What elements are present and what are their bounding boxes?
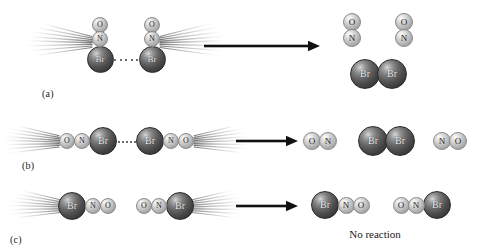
no-reaction-caption: No reaction (349, 228, 401, 240)
reactant-nobr-molecule-right-b-atom-n-1: N (163, 133, 179, 149)
motion-streaks (0, 180, 64, 233)
reactant-nobr-molecule-right-c-atom-br-2: Br (166, 192, 194, 220)
reactant-nobr-molecule-left-b-atom-o-0: O (59, 133, 75, 149)
reaction-arrow-a (204, 39, 320, 53)
reactant-nobr-molecule-left-c-atom-n-1: N (85, 198, 101, 214)
figure-canvas: (a)ONBrONBrONONBrBr(b)ONBrBrNOONBrBrNO(c… (0, 0, 477, 252)
product-nobr-molecule-left-c-atom-o-2: O (353, 197, 370, 214)
row-label-b: (b) (22, 160, 34, 171)
collision-contact-dots (114, 58, 138, 61)
reaction-arrow-c (236, 199, 298, 213)
product-nobr-molecule-right-c-atom-br-2: Br (423, 191, 451, 219)
product-no-molecule-right-b-atom-o-1: O (449, 132, 467, 150)
contact-dot (126, 141, 128, 143)
contact-dot (125, 59, 127, 61)
reactant-nobr-molecule-left-c-atom-o-2: O (100, 198, 116, 214)
contact-dot (130, 141, 132, 143)
product-br2-molecule-a-atom-br-1: Br (377, 59, 407, 89)
collision-contact-dots (118, 140, 136, 143)
product-no-molecule-right-a-atom-n-1: N (395, 29, 413, 47)
reactant-nobr-molecule-right-b-atom-br-0: Br (136, 127, 164, 155)
product-br2-molecule-b-atom-br-0: Br (358, 126, 388, 156)
product-br2-molecule-b-atom-br-1: Br (385, 126, 415, 156)
row-label-a: (a) (42, 88, 54, 99)
contact-dot (120, 59, 122, 61)
contact-dot (114, 59, 116, 61)
contact-dot (131, 59, 133, 61)
reactant-nobr-molecule-left-a-atom-n-1: N (92, 31, 108, 47)
reactant-nobr-molecule-left-a-atom-br-2: Br (87, 46, 114, 73)
product-no-molecule-left-a-atom-n-1: N (343, 29, 361, 47)
product-nobr-molecule-right-c-atom-n-1: N (408, 197, 425, 214)
contact-dot (134, 141, 136, 143)
reactant-nobr-molecule-right-b-atom-o-2: O (178, 133, 194, 149)
product-nobr-molecule-left-c-atom-n-1: N (338, 197, 355, 214)
contact-dot (118, 141, 120, 143)
motion-streaks (14, 11, 92, 73)
contact-dot (136, 59, 138, 61)
row-label-c: (c) (10, 234, 22, 245)
product-nobr-molecule-right-c-atom-o-0: O (393, 197, 410, 214)
reactant-nobr-molecule-left-b-atom-n-1: N (74, 133, 90, 149)
reactant-nobr-molecule-right-a-atom-n-1: N (144, 31, 160, 47)
reaction-arrow-b (236, 134, 298, 148)
reactant-nobr-molecule-left-c-atom-br-0: Br (58, 192, 86, 220)
reactant-nobr-molecule-right-a-atom-br-2: Br (139, 46, 166, 73)
product-br2-molecule-a-atom-br-0: Br (350, 59, 380, 89)
reactant-nobr-molecule-right-c-atom-n-1: N (151, 198, 167, 214)
product-no-molecule-left-b-atom-n-1: N (319, 132, 337, 150)
product-nobr-molecule-left-c-atom-br-0: Br (311, 191, 339, 219)
contact-dot (122, 141, 124, 143)
reactant-nobr-molecule-left-b-atom-br-2: Br (89, 127, 117, 155)
reactant-nobr-molecule-right-c-atom-o-0: O (136, 198, 152, 214)
